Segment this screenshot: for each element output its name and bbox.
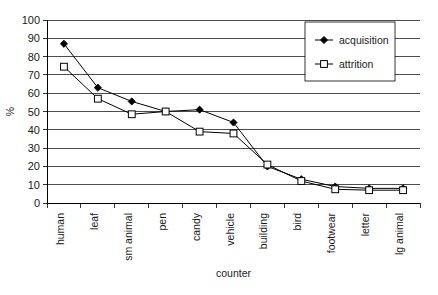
legend-marker-attrition	[321, 61, 328, 68]
data-point-attrition	[61, 63, 68, 70]
y-tick-label: 0	[34, 197, 40, 209]
y-tick-label: 60	[28, 87, 40, 99]
x-category-label: leaf	[88, 213, 100, 230]
x-axis-title: counter	[216, 267, 252, 279]
x-category-label: bird	[291, 213, 303, 231]
y-tick-label: 90	[28, 32, 40, 44]
data-point-attrition	[400, 187, 407, 194]
x-category-label: candy	[190, 212, 202, 241]
data-point-attrition	[128, 111, 135, 118]
x-category-label: building	[257, 213, 269, 249]
y-tick-label: 80	[28, 51, 40, 63]
legend-label-acquisition: acquisition	[339, 34, 389, 46]
y-tick-label: 100	[22, 14, 40, 26]
legend-label-attrition: attrition	[339, 58, 374, 70]
x-category-label: letter	[359, 212, 371, 236]
data-point-attrition	[264, 161, 271, 168]
series-line-attrition	[64, 67, 403, 191]
x-category-label: footwear	[325, 213, 337, 254]
data-point-attrition	[162, 108, 169, 115]
data-point-attrition	[332, 186, 339, 193]
y-tick-label: 40	[28, 124, 40, 136]
data-point-acquisition	[128, 98, 135, 105]
data-point-attrition	[196, 128, 203, 135]
x-category-label: sm animal	[122, 213, 134, 261]
y-tick-label: 20	[28, 160, 40, 172]
y-axis-title: %	[4, 107, 16, 116]
x-category-label: vehicle	[224, 213, 236, 246]
data-point-attrition	[230, 130, 237, 137]
data-point-attrition	[94, 95, 101, 102]
x-category-label: lg animal	[393, 213, 405, 255]
x-category-label: pen	[156, 213, 168, 231]
y-tick-label: 70	[28, 69, 40, 81]
y-tick-label: 10	[28, 179, 40, 191]
y-tick-label: 50	[28, 106, 40, 118]
line-chart: 0102030405060708090100%humanleafsm anima…	[0, 0, 438, 295]
x-category-label: human	[54, 213, 66, 245]
y-tick-label: 30	[28, 142, 40, 154]
data-point-attrition	[298, 178, 305, 185]
data-point-acquisition	[196, 106, 203, 113]
chart-canvas: 0102030405060708090100%humanleafsm anima…	[0, 0, 438, 295]
legend-box	[305, 22, 395, 81]
data-point-attrition	[366, 187, 373, 194]
